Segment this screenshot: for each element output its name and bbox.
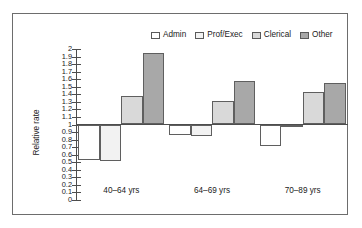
y-tick-mark [72,87,81,88]
bar [234,81,256,125]
y-tick-mark [72,177,81,178]
y-axis-tick-labels: 21.91.81.71.61.51.41.31.21.110.90.80.70.… [46,45,72,205]
bar [260,125,282,146]
legend-swatch-icon [300,32,309,39]
y-tick-mark [72,64,81,65]
legend-swatch-icon [195,32,204,39]
chart-legend: AdminProf/ExecClericalOther [151,29,333,42]
legend-label: Prof/Exec [207,31,243,39]
bar [212,101,234,124]
y-tick-mark [72,162,81,163]
y-tick-mark [72,109,81,110]
y-tick-mark [72,72,81,73]
bar [143,53,165,125]
bar [169,125,191,136]
y-tick-mark [72,117,81,118]
legend-item-admin[interactable]: Admin [151,31,186,39]
bar [121,96,143,125]
bar [100,125,122,161]
legend-item-other[interactable]: Other [300,31,332,39]
y-tick-mark [72,94,81,95]
y-tick-mark [72,49,81,50]
y-tick-mark [72,57,81,58]
x-axis-category-labels: 40–64 yrs64–69 yrs70–89 yrs [76,186,348,198]
legend-item-prof-exec[interactable]: Prof/Exec [195,31,243,39]
legend-item-clerical[interactable]: Clerical [252,31,291,39]
legend-swatch-icon [252,32,261,39]
y-tick-mark [72,192,81,193]
bar [191,125,213,136]
y-tick-mark [72,170,81,171]
legend-swatch-icon [151,32,160,39]
y-tick-mark [72,102,81,103]
x-category-label: 64–69 yrs [194,186,230,195]
y-axis-title-text: Relative rate [33,109,42,155]
bar [324,83,346,125]
plot-area [76,49,348,200]
y-tick-mark [72,79,81,80]
y-tick-mark [72,200,81,201]
chart-frame: AdminProf/ExecClericalOther Relative rat… [12,13,348,215]
bar [281,125,303,127]
x-category-label: 40–64 yrs [103,186,139,195]
x-category-label: 70–89 yrs [285,186,321,195]
legend-label: Other [312,31,332,39]
figure: AdminProf/ExecClericalOther Relative rat… [0,0,362,228]
legend-label: Clerical [264,31,291,39]
bar [78,125,100,160]
bar [303,92,325,124]
y-tick-mark [72,185,81,186]
y-axis-title: Relative rate [31,87,43,177]
legend-label: Admin [163,31,186,39]
